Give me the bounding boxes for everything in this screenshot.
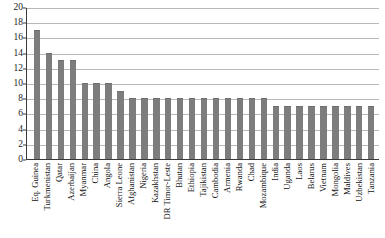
bar [93, 83, 99, 159]
x-label-slot: Bhutan [174, 163, 186, 237]
x-label-slot: Sierra Leone [114, 163, 126, 237]
x-axis-tick-label: Belarus [307, 163, 316, 189]
bar-slot [186, 8, 198, 159]
bar [308, 106, 314, 159]
bar-slot [79, 8, 91, 159]
bar-slot [31, 8, 43, 159]
bar-slot [55, 8, 67, 159]
x-axis-tick-label: Ethiopia [187, 163, 196, 192]
x-label-slot: Angola [102, 163, 114, 237]
bar [213, 98, 219, 159]
x-axis-tick-label: Laos [295, 163, 304, 180]
y-axis-tick-label: 10 [14, 79, 24, 89]
x-axis-tick-label: India [271, 163, 280, 181]
bar [225, 98, 231, 159]
x-label-slot: Afghanistan [126, 163, 138, 237]
x-axis-tick-label: Vietnam [319, 163, 328, 192]
bar-slot [127, 8, 139, 159]
bar [356, 106, 362, 159]
x-axis-tick-label: Tajikistan [199, 163, 208, 197]
bar [58, 60, 64, 159]
bar-slot [246, 8, 258, 159]
bar-slot [329, 8, 341, 159]
y-axis: 20181614121086420 [0, 0, 26, 168]
x-axis-tick-label: Armenia [223, 163, 232, 193]
bar [249, 98, 255, 159]
x-axis-tick-label: Qatar [55, 163, 64, 182]
x-axis-tick-label: Maldives [343, 163, 352, 195]
x-label-slot: Nigeria [138, 163, 150, 237]
x-label-slot: India [270, 163, 282, 237]
bar [165, 98, 171, 159]
bar [141, 98, 147, 159]
x-label-slot: China [90, 163, 102, 237]
bar [153, 98, 159, 159]
x-label-slot: Turkmenistan [42, 163, 54, 237]
bar [261, 98, 267, 159]
bar [105, 83, 111, 159]
x-label-slot: Belarus [306, 163, 318, 237]
bar [284, 106, 290, 159]
x-axis-tick-label: Azerbaijan [67, 163, 76, 201]
x-label-slot: Azerbaijan [66, 163, 78, 237]
bar [273, 106, 279, 159]
bar [368, 106, 374, 159]
bar [82, 83, 88, 159]
bar [177, 98, 183, 159]
x-axis-tick-label: Turkmenistan [43, 163, 52, 210]
bar-slot [341, 8, 353, 159]
bar-slot [138, 8, 150, 159]
x-axis-tick-label: Afghanistan [127, 163, 136, 205]
x-axis-tick-label: Chad [247, 163, 256, 181]
bar-slot [150, 8, 162, 159]
x-label-slot: Myanmar [78, 163, 90, 237]
x-label-slot: Chad [246, 163, 258, 237]
y-axis-tick-label: 12 [14, 64, 24, 74]
x-axis-tick-label: Cambodia [211, 163, 220, 198]
y-axis-tick-label: 18 [14, 18, 24, 28]
x-label-slot: Maldives [342, 163, 354, 237]
bar-slot [270, 8, 282, 159]
bar [70, 60, 76, 159]
y-axis-tick-label: 20 [14, 3, 24, 13]
x-label-slot: Vietnam [318, 163, 330, 237]
bar-slot [103, 8, 115, 159]
x-axis-tick-label: Nigeria [139, 163, 148, 189]
x-axis-tick-label: Tanzania [367, 163, 376, 194]
x-axis-tick-label: Mozambique [259, 163, 268, 208]
x-axis-tick-label: Kazakhstan [151, 163, 160, 203]
x-label-slot: Mongolia [330, 163, 342, 237]
x-label-slot: Kazakhstan [150, 163, 162, 237]
y-axis-tick-label: 16 [14, 34, 24, 44]
bar [296, 106, 302, 159]
x-label-slot: Laos [294, 163, 306, 237]
x-label-slot: Uzbekistan [354, 163, 366, 237]
x-label-slot: Tanzania [366, 163, 378, 237]
bar-slot [306, 8, 318, 159]
x-label-slot: Rwanda [234, 163, 246, 237]
bar [332, 106, 338, 159]
bar-slot [258, 8, 270, 159]
bar-slot [67, 8, 79, 159]
bar-slot [210, 8, 222, 159]
bar-slot [91, 8, 103, 159]
bar [189, 98, 195, 159]
x-label-slot: Qatar [54, 163, 66, 237]
bar-slot [294, 8, 306, 159]
plot-area [26, 8, 379, 160]
x-label-slot: Cambodia [210, 163, 222, 237]
bar [237, 98, 243, 159]
x-axis-tick-label: Sierra Leone [115, 163, 124, 207]
x-axis-tick-label: DR Timor-Leste [163, 163, 172, 219]
bar-slot [353, 8, 365, 159]
bar-slot [282, 8, 294, 159]
x-label-slot: Uganda [282, 163, 294, 237]
bar-slot [162, 8, 174, 159]
bar-slot [222, 8, 234, 159]
bar [201, 98, 207, 159]
bar-chart: 20181614121086420 Eq. GuineaTurkmenistan… [0, 0, 385, 238]
bar-slot [318, 8, 330, 159]
y-axis-tick-label: 14 [14, 49, 24, 59]
bar-slot [198, 8, 210, 159]
x-axis-tick-label: Angola [103, 163, 112, 188]
